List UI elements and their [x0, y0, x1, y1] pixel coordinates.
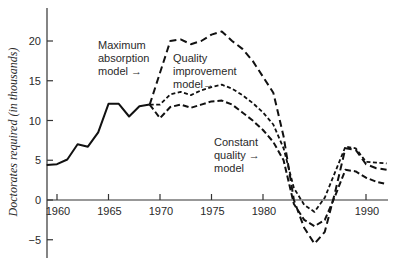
x-tick-label: 1980: [252, 205, 276, 217]
y-tick-label: 5: [35, 154, 41, 166]
x-tick-label: 1990: [355, 205, 379, 217]
annotation-line: Constant: [214, 136, 258, 148]
x-tick-label: 1960: [46, 205, 70, 217]
annotation-line: Quality: [173, 52, 208, 64]
series-historical-solid: [47, 104, 150, 165]
annotation-line: model→: [173, 78, 214, 90]
line-chart: −505101520 196019651970197519801990 Doct…: [0, 0, 397, 265]
annotation-maximum-absorption: Maximum absorption model →: [98, 39, 149, 77]
x-axis-ticks: 196019651970197519801990: [46, 194, 379, 217]
y-tick-label: 10: [29, 115, 41, 127]
x-tick-label: 1965: [97, 205, 121, 217]
y-tick-label: 15: [29, 75, 41, 87]
y-tick-label: 20: [29, 35, 41, 47]
y-axis: −505101520: [28, 8, 53, 258]
y-tick-label: 0: [35, 194, 41, 206]
x-tick-label: 1970: [149, 205, 173, 217]
series-quality-improvement-model: [150, 85, 387, 212]
annotation-quality-improvement: Quality improvement model→: [173, 52, 237, 90]
annotation-line: quality →: [214, 149, 260, 161]
x-tick-label: 1975: [200, 205, 224, 217]
annotation-line: model →: [98, 65, 142, 77]
annotation-line: model: [214, 162, 244, 174]
annotation-constant-quality: Constant quality → model: [214, 136, 260, 174]
annotation-line: improvement: [173, 65, 237, 77]
chart-canvas: −505101520 196019651970197519801990 Doct…: [0, 0, 397, 265]
y-axis-label: Doctorates required (in thousands): [6, 48, 20, 218]
x-axis: 196019651970197519801990: [46, 194, 388, 217]
annotation-line: absorption: [98, 52, 149, 64]
y-tick-label: −5: [28, 234, 41, 246]
annotation-line: Maximum: [98, 39, 146, 51]
